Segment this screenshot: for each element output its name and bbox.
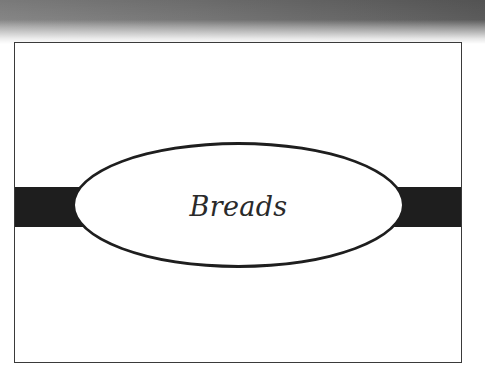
top-gradient-shade [0, 0, 485, 44]
slide-frame: Breads [14, 42, 462, 363]
slide-title: Breads [190, 191, 288, 222]
slide-canvas: Breads [0, 0, 485, 383]
title-ellipse: Breads [72, 142, 405, 268]
